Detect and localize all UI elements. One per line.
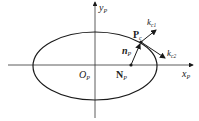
point-N-label: NP [116,69,127,81]
origin-label: OP [79,69,90,81]
vector-k2 [141,42,165,58]
vector-k2-label: kc2 [167,48,176,59]
point-P-label: Pc [133,29,142,41]
normal-label: nP [122,45,132,57]
vector-k1-label: kc1 [147,17,156,28]
ellipse-diagram: yP xP OP NP Pc nP kc1 kc2 [0,0,199,121]
point-N [129,63,132,66]
y-axis-label: yP [98,2,107,14]
vector-k1 [141,30,156,42]
normal-vector [131,44,140,65]
x-axis-label: xP [181,68,190,80]
